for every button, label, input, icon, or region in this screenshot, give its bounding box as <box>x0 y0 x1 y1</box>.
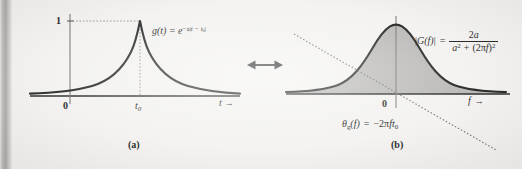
panel-b-phase-t-sub: 0 <box>395 123 398 130</box>
panel-b-mag-den-a-exp: 2 <box>457 42 460 49</box>
panel-a-caption: (a) <box>128 140 140 150</box>
panel-a-exponent-bar-close: | <box>205 25 206 32</box>
panel-b-mag-numerator: 2a <box>449 30 498 42</box>
panel-a-x-axis-var: t <box>219 97 222 108</box>
panel-b-mag-fraction: 2a a2+(2πf)2 <box>449 30 498 54</box>
panel-b-mag-den-plus: + <box>464 42 470 53</box>
panel-b-phase-equals: = <box>364 118 370 129</box>
panel-b-mag-equals: = <box>440 35 446 46</box>
panel-b-frequency-domain: 0 f→ |G(f)|= 2a a2+(2πf)2 θg(f)=−2πft0 (… <box>272 0 522 169</box>
panel-b-phase-minus: −2 <box>373 118 384 129</box>
panel-b-x-axis-label: f→ <box>468 96 483 106</box>
panel-b-phase-arg: (f) <box>350 118 359 129</box>
figure-container: 1 0 t0 t→ g(t)=e−a|t − t0| (a) <box>0 0 522 169</box>
panel-b-origin-label: 0 <box>382 99 387 109</box>
panel-a-origin-label: 0 <box>63 101 68 111</box>
scan-edge-artifact <box>0 0 12 169</box>
panel-a-y-tick-label: 1 <box>56 16 61 26</box>
panel-b-mag-den-exp: 2 <box>492 42 495 49</box>
panel-b-phase-equation: θg(f)=−2πft0 <box>342 119 398 131</box>
panel-b-mag-bar-close: | <box>434 35 436 46</box>
panel-a-equation: g(t)=e−a|t − t0| <box>152 26 206 36</box>
panel-b-caption: (b) <box>391 140 403 150</box>
panel-a-x-axis-label: t→ <box>219 98 233 108</box>
panel-b-x-axis-arrow-icon: → <box>475 96 484 106</box>
panel-b-mag-den-open: (2 <box>472 42 480 53</box>
panel-a-x-axis-arrow-icon: → <box>225 98 234 108</box>
panel-a-equation-lhs: g(t) <box>152 25 166 36</box>
panel-a-equation-equals: = <box>169 25 175 36</box>
panel-b-x-axis-var: f <box>468 95 471 106</box>
panel-a-exponent-body: t − t <box>191 25 203 32</box>
panel-a-exponential-curve <box>30 21 240 94</box>
panel-b-mag-num-var: a <box>474 29 479 40</box>
panel-b-mag-lhs: G(f) <box>417 35 434 46</box>
panel-b-mag-denominator: a2+(2πf)2 <box>449 42 498 54</box>
panel-a-t0-subscript: 0 <box>138 105 141 112</box>
panel-a-equation-exponent: −a|t − t0| <box>183 25 207 32</box>
panel-b-magnitude-equation: |G(f)|= 2a a2+(2πf)2 <box>415 30 498 54</box>
panel-a-time-domain: 1 0 t0 t→ g(t)=e−a|t − t0| (a) <box>12 0 260 169</box>
panel-a-t0-label: t0 <box>135 101 141 113</box>
